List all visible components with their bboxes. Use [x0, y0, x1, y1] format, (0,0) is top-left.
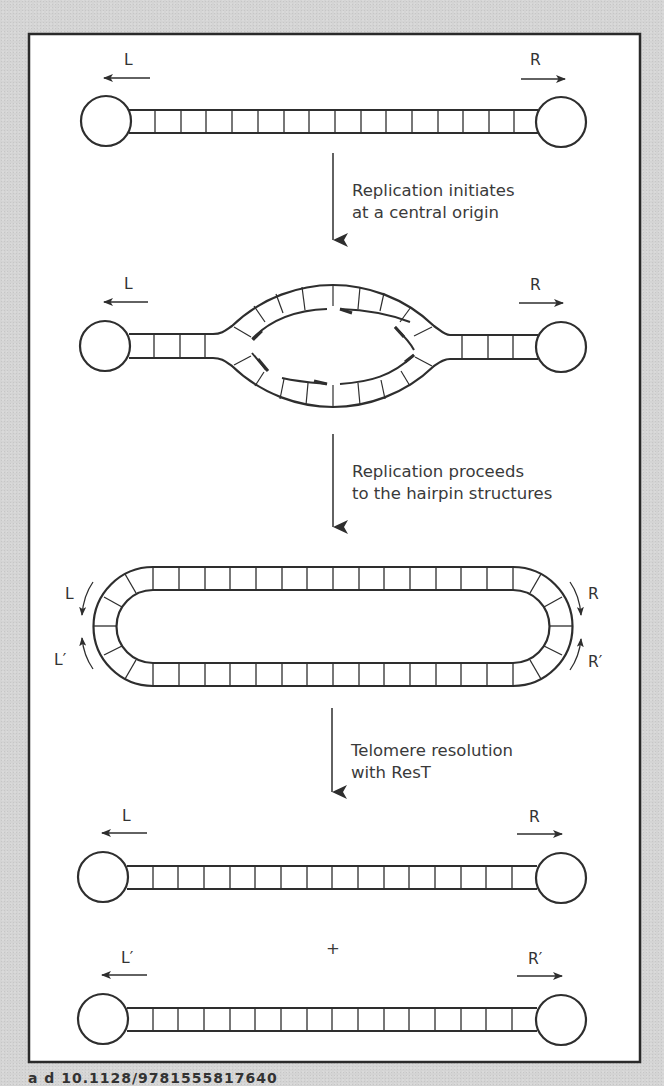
stage-3-right-label-rprime: R′	[588, 653, 603, 671]
product-2-left-label: L′	[121, 949, 134, 967]
plus-sign: +	[326, 939, 340, 958]
stage-3-left-label-lprime: L′	[54, 651, 67, 669]
stage-3-left-label-l: L	[65, 585, 74, 603]
product-2-right-label: R′	[528, 950, 543, 968]
footer-caption-partial: a d 10.1128/9781555817640	[28, 1070, 278, 1086]
product-1-right-label: R	[529, 808, 540, 826]
step-2-caption-line1: Replication proceeds	[352, 462, 524, 481]
stage-3-right-label-r: R	[588, 585, 599, 603]
step-1-caption-line2: at a central origin	[352, 203, 499, 222]
product-1-left-label: L	[122, 807, 131, 825]
step-3-caption-line1: Telomere resolution	[350, 741, 513, 760]
step-3-caption-line2: with ResT	[351, 763, 432, 782]
stage-2-left-label: L	[124, 275, 133, 293]
stage-1-right-label: R	[530, 51, 541, 69]
figure-panel	[29, 34, 640, 1062]
stage-1-left-label: L	[124, 51, 133, 69]
stage-2-right-label: R	[530, 276, 541, 294]
step-2-caption-line2: to the hairpin structures	[352, 484, 552, 503]
step-1-caption-line1: Replication initiates	[352, 181, 515, 200]
